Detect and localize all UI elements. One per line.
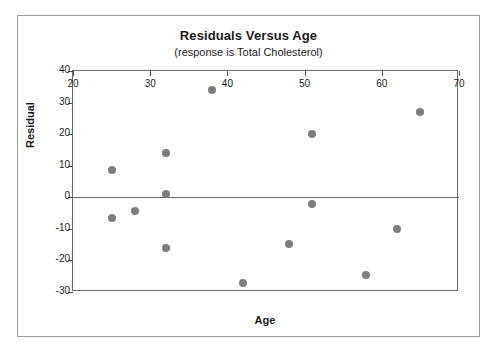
- data-point: [362, 271, 370, 279]
- x-axis-title: Age: [72, 314, 458, 326]
- x-tick-mark: [227, 71, 228, 76]
- residual-plot-figure: Residuals Versus Age (response is Total …: [0, 0, 497, 353]
- data-point: [208, 86, 216, 94]
- x-tick-label: 30: [145, 78, 156, 89]
- x-tick-label: 70: [453, 78, 464, 89]
- data-point: [285, 240, 293, 248]
- y-tick-label: -20: [56, 253, 70, 264]
- data-point: [108, 214, 116, 222]
- x-tick-label: 20: [67, 78, 78, 89]
- data-point: [308, 130, 316, 138]
- x-tick-mark: [150, 71, 151, 76]
- x-tick-mark: [382, 71, 383, 76]
- x-tick-mark: [73, 71, 74, 76]
- data-point: [393, 225, 401, 233]
- data-point: [131, 207, 139, 215]
- y-tick-label: 0: [64, 190, 70, 201]
- x-tick-label: 60: [376, 78, 387, 89]
- data-point: [416, 108, 424, 116]
- chart-title: Residuals Versus Age: [0, 28, 497, 43]
- y-tick-label: 40: [59, 64, 70, 75]
- x-tick-label: 40: [222, 78, 233, 89]
- chart-subtitle: (response is Total Cholesterol): [0, 46, 497, 58]
- y-tick-label: 30: [59, 96, 70, 107]
- y-tick-label: -30: [56, 285, 70, 296]
- y-tick-label: 10: [59, 159, 70, 170]
- zero-reference-line: [73, 197, 459, 198]
- data-point: [162, 244, 170, 252]
- x-tick-mark: [459, 71, 460, 76]
- y-tick-label: -10: [56, 222, 70, 233]
- data-point: [308, 200, 316, 208]
- data-point: [239, 279, 247, 287]
- data-point: [108, 166, 116, 174]
- y-tick-label: 20: [59, 127, 70, 138]
- x-tick-mark: [305, 71, 306, 76]
- data-point: [162, 149, 170, 157]
- x-tick-label: 50: [299, 78, 310, 89]
- plot-area: 403020100-10-20-30 203040506070: [72, 70, 458, 291]
- y-axis-title: Residual: [24, 102, 36, 148]
- data-point: [162, 190, 170, 198]
